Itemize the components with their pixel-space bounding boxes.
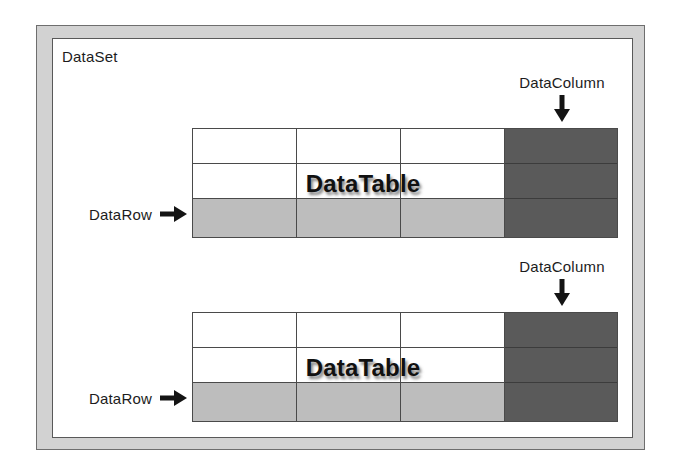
arrow-down-icon-1 <box>492 95 632 123</box>
arrow-right-icon-2 <box>160 390 192 406</box>
table-cell <box>297 164 401 199</box>
table-cell <box>401 129 505 164</box>
datatable-2: DataTable <box>192 312 618 422</box>
datatable-2-grid <box>193 313 617 421</box>
datacolumn-callout-2: DataColumn <box>492 258 632 307</box>
table-cell <box>193 164 297 199</box>
dataset-label: DataSet <box>62 48 118 65</box>
table-cell-highlighted-row <box>193 199 297 237</box>
table-cell-highlighted-column <box>505 164 617 199</box>
table-cell <box>193 313 297 348</box>
table-cell-highlighted-row <box>297 383 401 421</box>
table-cell <box>297 129 401 164</box>
datarow-callout-2: DataRow <box>64 387 192 409</box>
table-cell <box>401 164 505 199</box>
table-cell <box>297 348 401 383</box>
table-cell-highlighted-column <box>505 129 617 164</box>
datarow-callout-1: DataRow <box>64 203 192 225</box>
datacolumn-label-1: DataColumn <box>492 74 632 91</box>
table-cell <box>401 348 505 383</box>
table-cell-highlighted-row <box>193 383 297 421</box>
table-cell-highlighted-row <box>297 199 401 237</box>
arrow-down-icon-2 <box>492 279 632 307</box>
datacolumn-callout-1: DataColumn <box>492 74 632 123</box>
diagram-canvas: DataSet DataColumn DataRow Dat <box>0 0 680 470</box>
table-cell-highlighted-column <box>505 348 617 383</box>
table-cell-highlighted-row <box>401 199 505 237</box>
table-cell <box>297 313 401 348</box>
datatable-1: DataTable <box>192 128 618 238</box>
datacolumn-label-2: DataColumn <box>492 258 632 275</box>
table-cell-highlighted-intersection <box>505 383 617 421</box>
table-cell <box>193 129 297 164</box>
datatable-1-grid <box>193 129 617 237</box>
table-cell-highlighted-intersection <box>505 199 617 237</box>
arrow-right-icon-1 <box>160 206 192 222</box>
datarow-label-2: DataRow <box>89 390 152 407</box>
table-cell-highlighted-row <box>401 383 505 421</box>
table-cell-highlighted-column <box>505 313 617 348</box>
table-cell <box>401 313 505 348</box>
table-cell <box>193 348 297 383</box>
datarow-label-1: DataRow <box>89 206 152 223</box>
